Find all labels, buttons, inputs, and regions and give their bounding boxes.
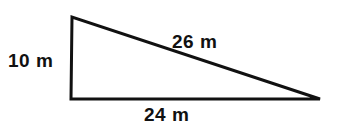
base-length-label: 24 m — [144, 105, 189, 124]
triangle-outline — [71, 17, 320, 99]
hypotenuse-length-label: 26 m — [172, 32, 217, 51]
triangle-figure: 10 m 26 m 24 m — [0, 0, 339, 126]
vertical-leg-length-label: 10 m — [8, 51, 53, 70]
